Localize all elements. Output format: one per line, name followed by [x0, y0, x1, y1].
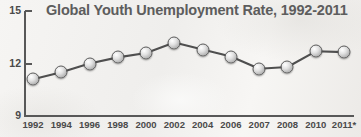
data-point-2011 — [338, 46, 351, 59]
data-point-1994 — [55, 66, 68, 79]
data-point-1992 — [27, 73, 40, 86]
data-point-1996 — [83, 57, 96, 70]
series-polyline — [33, 43, 344, 80]
data-point-2004 — [196, 43, 209, 56]
data-point-1998 — [111, 51, 124, 64]
chart-container: Global Youth Unemployment Rate, 1992-201… — [0, 0, 361, 137]
line-series — [0, 0, 361, 137]
data-point-2008 — [281, 61, 294, 74]
data-point-2006 — [224, 50, 237, 63]
data-point-2002 — [168, 36, 181, 49]
data-point-2007 — [253, 62, 266, 75]
data-point-2000 — [140, 47, 153, 60]
data-point-2010 — [309, 45, 322, 58]
